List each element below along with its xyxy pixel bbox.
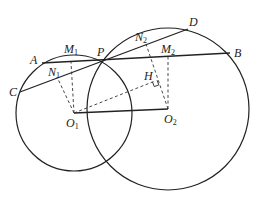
geometry-diagram: A C P D B M1 N1 M2 N2 H O1 O2 [0,0,260,202]
label-n2: N2 [134,30,147,45]
dashed-o1-n1 [57,77,74,113]
right-angle-mark [153,80,159,86]
label-o2: O2 [164,112,177,127]
label-n1: N1 [47,65,60,80]
chord-cd [20,29,188,92]
segment-o1o2 [74,109,168,113]
label-m2: M2 [160,42,175,57]
label-o1: O1 [66,116,79,131]
label-m1: M1 [63,42,78,57]
label-a: A [29,53,38,67]
dashed-o1-h [74,81,155,113]
diagram-svg: A C P D B M1 N1 M2 N2 H O1 O2 [0,0,260,202]
label-b: B [234,46,242,60]
label-h: H [143,69,154,83]
label-d: D [188,15,198,29]
dashed-o1-m1 [71,62,74,113]
label-c: C [9,85,18,99]
label-p: P [96,45,105,59]
